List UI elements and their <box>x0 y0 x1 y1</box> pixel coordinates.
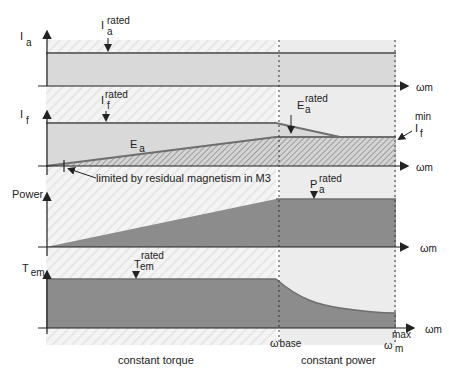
svg-text:I: I <box>101 94 104 106</box>
svg-text:em: em <box>140 261 154 272</box>
svg-text:Power: Power <box>12 188 44 200</box>
svg-text:Tem: Tem <box>22 262 45 278</box>
svg-text:rated: rated <box>305 93 328 104</box>
svg-text:ωm: ωm <box>416 161 433 173</box>
svg-text:I: I <box>101 19 104 31</box>
svg-text:rated: rated <box>107 15 130 26</box>
panel-ia: Ia I rated a ωm <box>20 15 433 93</box>
svg-text:f: f <box>107 100 110 111</box>
svg-text:rated: rated <box>105 89 128 100</box>
svg-text:a: a <box>319 184 325 195</box>
svg-text:rated: rated <box>319 173 342 184</box>
svg-text:max: max <box>392 329 411 340</box>
svg-text:f: f <box>420 128 423 139</box>
svg-text:ωm: ωm <box>420 242 437 254</box>
svg-text:Ia: Ia <box>20 30 32 48</box>
svg-text:ωm: ωm <box>416 81 433 93</box>
svg-text:a: a <box>107 26 113 37</box>
svg-text:If: If <box>20 108 29 126</box>
svg-text:ω: ω <box>384 339 393 351</box>
svg-text:P: P <box>310 178 317 190</box>
svg-text:min: min <box>415 111 431 122</box>
constant-power-label: constant power <box>301 354 376 366</box>
svg-text:limited by residual magnetism: limited by residual magnetism in M3 <box>96 172 271 184</box>
svg-text:E: E <box>297 99 304 111</box>
svg-text:a: a <box>305 104 311 115</box>
svg-text:ωbase: ωbase <box>270 337 302 349</box>
if-min-arrow <box>399 131 412 139</box>
field-weakening-diagram: Ia I rated a ωm If I rated f Ea E rated … <box>0 0 449 378</box>
constant-torque-label: constant torque <box>118 354 194 366</box>
svg-text:I: I <box>415 122 418 134</box>
svg-text:rated: rated <box>141 250 164 261</box>
svg-text:ωm: ωm <box>425 323 442 335</box>
svg-text:m: m <box>395 343 403 354</box>
